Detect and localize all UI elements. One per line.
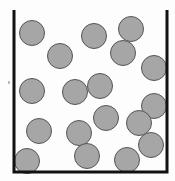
- particle-circle: [48, 44, 73, 69]
- particles-group: [15, 17, 167, 174]
- particle-circle: [27, 119, 52, 144]
- particle-circle: [20, 79, 45, 104]
- particle-circle: [119, 17, 144, 42]
- particle-circle: [127, 111, 152, 136]
- particle-circle: [111, 41, 136, 66]
- side-tick-mark: [8, 81, 10, 84]
- particle-circle: [75, 144, 100, 169]
- particle-circle: [20, 21, 45, 46]
- particle-circle: [94, 106, 119, 131]
- particle-circle: [15, 149, 40, 174]
- particle-circle: [115, 148, 140, 173]
- particle-circle: [82, 24, 107, 49]
- particle-circle: [88, 74, 113, 99]
- particle-circle: [139, 133, 164, 158]
- particle-circle: [67, 121, 92, 146]
- particle-circle: [142, 56, 167, 81]
- particle-container-diagram: [0, 0, 175, 181]
- particle-circle: [63, 80, 88, 105]
